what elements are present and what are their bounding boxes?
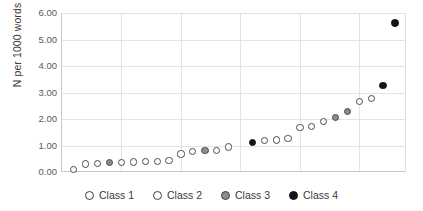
data-point	[296, 124, 303, 131]
vertical-gridline	[359, 13, 360, 171]
data-point	[70, 166, 77, 173]
y-axis-tick-labels: 6.005.004.003.002.001.000.00	[26, 0, 57, 211]
data-point	[213, 147, 220, 154]
y-axis-tick-label: 0.00	[27, 167, 57, 176]
legend-item-label: Class 2	[167, 189, 202, 201]
horizontal-gridline	[62, 146, 406, 147]
data-point	[142, 158, 149, 165]
data-point	[261, 137, 268, 144]
data-point	[130, 158, 137, 165]
chart-legend: Class 1Class 2Class 3Class 4	[0, 185, 423, 205]
y-axis-tick-label: 6.00	[27, 8, 57, 17]
data-point	[225, 143, 232, 150]
data-point	[118, 159, 125, 166]
legend-marker-icon	[221, 191, 230, 200]
data-point	[82, 160, 89, 167]
scatter-chart: N per 1000 words 6.005.004.003.002.001.0…	[0, 0, 423, 211]
legend-marker-icon	[85, 191, 94, 200]
legend-item-label: Class 1	[99, 189, 134, 201]
horizontal-gridline	[62, 93, 406, 94]
data-point	[379, 82, 387, 90]
legend-marker-icon	[289, 191, 298, 200]
data-point	[189, 148, 196, 155]
legend-item-c1[interactable]: Class 1	[85, 189, 134, 201]
data-point	[284, 135, 291, 142]
data-point	[368, 95, 375, 102]
vertical-gridline	[121, 13, 122, 171]
y-axis-tick-label: 3.00	[27, 88, 57, 97]
data-point	[154, 158, 161, 165]
legend-item-label: Class 3	[235, 189, 270, 201]
data-point	[332, 114, 340, 122]
data-point	[106, 159, 114, 167]
vertical-gridline	[181, 13, 182, 171]
data-point	[165, 157, 172, 164]
data-point	[344, 108, 352, 116]
horizontal-gridline	[62, 66, 406, 67]
y-axis-title: N per 1000 words	[11, 0, 25, 115]
data-point	[320, 118, 327, 125]
legend-item-c3[interactable]: Class 3	[221, 189, 270, 201]
data-point	[308, 123, 315, 130]
data-point	[177, 150, 184, 157]
horizontal-gridline	[62, 40, 406, 41]
horizontal-gridline	[62, 13, 406, 14]
vertical-gridline	[240, 13, 241, 171]
legend-item-label: Class 4	[303, 189, 338, 201]
plot-area	[61, 13, 406, 172]
data-point	[94, 160, 101, 167]
legend-item-c4[interactable]: Class 4	[289, 189, 338, 201]
legend-item-c2[interactable]: Class 2	[153, 189, 202, 201]
data-point	[391, 19, 399, 27]
horizontal-gridline	[62, 119, 406, 120]
y-axis-tick-label: 1.00	[27, 141, 57, 150]
y-axis-tick-label: 2.00	[27, 114, 57, 123]
data-point	[356, 98, 363, 105]
data-point	[273, 136, 280, 143]
y-axis-tick-label: 4.00	[27, 61, 57, 70]
y-axis-tick-label: 5.00	[27, 35, 57, 44]
data-point	[201, 147, 209, 155]
legend-marker-icon	[153, 191, 162, 200]
vertical-gridline	[300, 13, 301, 171]
